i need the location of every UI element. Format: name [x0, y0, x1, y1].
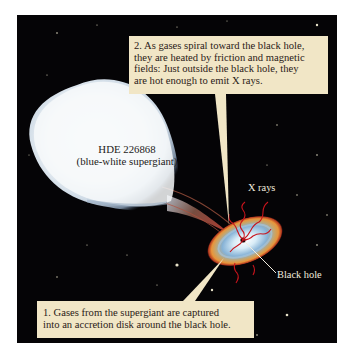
xrays-label: X rays	[248, 182, 275, 193]
star-name: HDE 226868	[57, 143, 197, 155]
callout-2-line: fields: Just outside the black hole, the…	[134, 63, 323, 75]
illustration-panel: HDE 226868 (blue-white supergiant) X ray…	[17, 15, 337, 343]
callout-1-line: 1. Gases from the supergiant are capture…	[43, 307, 248, 319]
star-description: (blue-white supergiant)	[57, 155, 197, 167]
black-hole-label: Black hole	[277, 269, 322, 280]
callout-1-pointer	[183, 258, 224, 301]
callout-2-line: are hot enough to emit X rays.	[134, 75, 323, 87]
callout-2-pointer	[215, 94, 229, 225]
supergiant-label: HDE 226868 (blue-white supergiant)	[57, 143, 197, 167]
callout-2-line: 2. As gases spiral toward the black hole…	[134, 40, 323, 52]
callout-1-line: into an accretion disk around the black …	[43, 319, 248, 331]
callout-2-line: they are heated by friction and magnetic	[134, 52, 323, 64]
callout-step-1: 1. Gases from the supergiant are capture…	[37, 301, 254, 338]
callout-step-2: 2. As gases spiral toward the black hole…	[129, 36, 328, 94]
